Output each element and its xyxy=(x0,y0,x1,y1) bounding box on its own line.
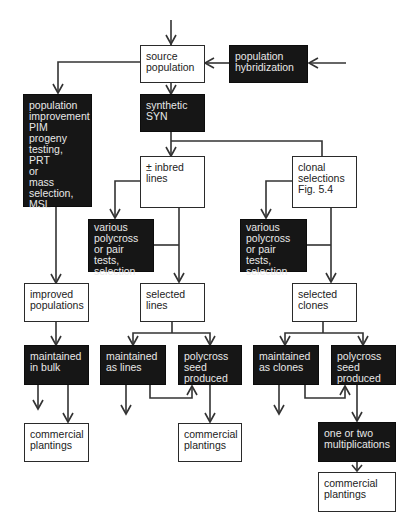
various-tests-lines-label: various polycross or pair tests, selecti… xyxy=(94,221,138,277)
inbred-lines-label: ± inbred lines xyxy=(146,161,184,184)
selected-lines-label: selected lines xyxy=(146,288,185,311)
maintained-in-bulk-box: maintained in bulk xyxy=(24,345,89,385)
commercial-plantings-clones-label: commercial plantings xyxy=(324,477,378,500)
improved-populations-label: improved populations xyxy=(30,288,84,311)
source-population-label: source population xyxy=(146,50,194,73)
source-population-box: source population xyxy=(140,45,205,83)
maintained-in-bulk-label: maintained in bulk xyxy=(30,350,81,373)
maintained-as-clones-label: maintained as clones xyxy=(259,350,310,373)
selected-clones-box: selected clones xyxy=(292,283,357,322)
maintained-as-lines-box: maintained as lines xyxy=(100,345,166,385)
various-tests-clones-label: various polycross or pair tests, selecti… xyxy=(246,221,290,277)
selected-lines-box: selected lines xyxy=(140,283,205,322)
maintained-as-clones-box: maintained as clones xyxy=(253,345,319,385)
various-tests-lines-box: various polycross or pair tests, selecti… xyxy=(88,219,154,272)
polycross-seed-clones-label: polycross seed produced xyxy=(337,350,381,384)
commercial-plantings-clones-box: commercial plantings xyxy=(318,472,396,512)
population-hybridization-box: population hybridization xyxy=(229,45,308,83)
commercial-plantings-bulk-box: commercial plantings xyxy=(24,423,89,462)
clonal-selections-box: clonal selections Fig. 5.4 xyxy=(292,156,357,208)
multiplications-box: one or two multiplications xyxy=(318,422,396,462)
population-improvement-label: population improvement PIM progeny testi… xyxy=(29,99,90,210)
population-hybridization-label: population hybridization xyxy=(235,50,294,73)
improved-populations-box: improved populations xyxy=(24,283,89,322)
commercial-plantings-lines-box: commercial plantings xyxy=(178,423,242,462)
selected-clones-label: selected clones xyxy=(298,288,337,311)
polycross-seed-lines-box: polycross seed produced xyxy=(178,345,242,385)
multiplications-label: one or two multiplications xyxy=(324,427,390,450)
polycross-seed-lines-label: polycross seed produced xyxy=(184,350,228,384)
clonal-selections-label: clonal selections Fig. 5.4 xyxy=(298,161,345,195)
breeding-scheme-flowchart: source population population hybridizati… xyxy=(0,0,416,530)
various-tests-clones-box: various polycross or pair tests, selecti… xyxy=(240,219,307,272)
synthetic-box: synthetic SYN xyxy=(140,94,205,132)
maintained-as-lines-label: maintained as lines xyxy=(106,350,157,373)
population-improvement-box: population improvement PIM progeny testi… xyxy=(23,94,92,207)
commercial-plantings-bulk-label: commercial plantings xyxy=(30,428,84,451)
synthetic-label: synthetic SYN xyxy=(146,99,187,122)
inbred-lines-box: ± inbred lines xyxy=(140,156,205,208)
commercial-plantings-lines-label: commercial plantings xyxy=(184,428,238,451)
polycross-seed-clones-box: polycross seed produced xyxy=(331,345,396,385)
